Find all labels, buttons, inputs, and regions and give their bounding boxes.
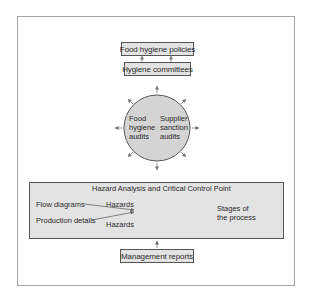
- management-reports-box: Management reports: [120, 249, 194, 263]
